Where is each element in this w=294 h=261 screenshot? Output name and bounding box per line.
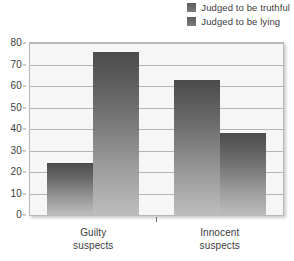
x-axis: GuiltysuspectsInnocentsuspects <box>29 217 284 261</box>
y-tick-label: 80 <box>10 38 22 48</box>
y-tick-label: 10 <box>10 189 22 199</box>
x-tick-label-line: Guilty <box>73 226 113 239</box>
chart-legend: Judged to be truthful Judged to be lying <box>187 2 290 27</box>
x-tick-label-line: suspects <box>73 239 113 252</box>
y-tick-mark <box>23 86 26 87</box>
y-tick-label: 40 <box>10 124 22 134</box>
y-tick-mark <box>23 64 26 65</box>
bar <box>93 52 139 215</box>
y-tick-mark <box>23 193 26 194</box>
y-tick-mark <box>23 107 26 108</box>
legend-swatch-icon-truthful <box>187 3 196 12</box>
x-tick-label: Guiltysuspects <box>73 226 113 252</box>
y-tick-label: 20 <box>10 167 22 177</box>
x-tick-label: Innocentsuspects <box>200 226 240 252</box>
y-tick-label: 30 <box>10 146 22 156</box>
y-tick-mark <box>23 43 26 44</box>
y-tick-mark <box>23 150 26 151</box>
y-tick-label: 0 <box>16 210 22 220</box>
legend-swatch-icon-lying <box>187 17 196 26</box>
plot-area <box>29 42 284 216</box>
legend-item-truthful: Judged to be truthful <box>187 2 290 13</box>
bar-chart: Judged to be truthful Judged to be lying… <box>0 0 294 261</box>
bar <box>220 133 266 215</box>
x-tick-label-line: suspects <box>200 239 240 252</box>
y-axis: 01020304050607080 <box>0 42 26 216</box>
y-tick-mark <box>23 172 26 173</box>
x-axis-tick-mark <box>156 217 157 222</box>
legend-label-truthful: Judged to be truthful <box>201 2 290 13</box>
y-tick-mark <box>23 215 26 216</box>
bar <box>174 80 220 215</box>
y-tick-label: 50 <box>10 103 22 113</box>
y-tick-label: 60 <box>10 81 22 91</box>
y-tick-label: 70 <box>10 60 22 70</box>
legend-label-lying: Judged to be lying <box>201 16 280 27</box>
x-tick-label-line: Innocent <box>200 226 240 239</box>
bar <box>47 163 93 215</box>
bars-layer <box>30 43 283 215</box>
legend-item-lying: Judged to be lying <box>187 16 280 27</box>
y-tick-mark <box>23 129 26 130</box>
